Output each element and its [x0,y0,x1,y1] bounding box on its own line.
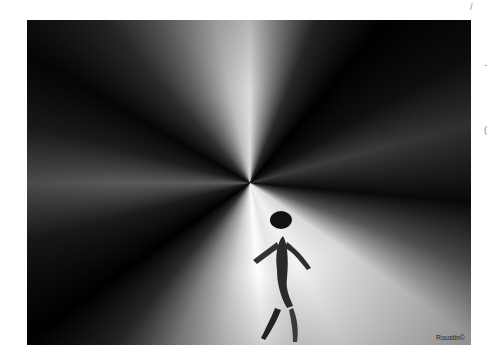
watermark-text: Roustin© [436,334,465,341]
margin-mark-paren: ( [484,125,487,135]
margin-mark-top: / [470,2,473,12]
artwork-frame: Roustin© [27,20,471,345]
margin-mark-dash: - [484,60,487,70]
silhouette-figure [247,208,327,343]
